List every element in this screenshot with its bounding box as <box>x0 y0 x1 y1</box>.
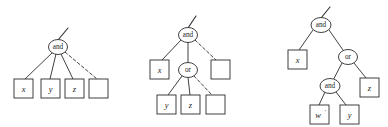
tree-2-edge-to-empty-top <box>195 40 216 60</box>
tree-1-leaf-box-empty[interactable] <box>89 79 108 98</box>
tree-1-root-stub-edge <box>58 28 68 40</box>
and-or-trees-figure: and x y z and or x <box>0 0 388 127</box>
tree-1-leaf-label-z: z <box>72 85 77 94</box>
tree-3-or-label: or <box>345 53 352 61</box>
tree-2-leaf-box-empty[interactable] <box>206 95 225 114</box>
tree-3-or-edge-to-and <box>334 63 342 79</box>
tree-2-leaf-label-y: y <box>164 101 169 110</box>
tree-1-leaf-label-x: x <box>21 85 26 94</box>
tree-1-edge-to-empty <box>65 52 97 79</box>
tree-3-edge-to-or <box>329 30 343 50</box>
tree-2: and or x y z <box>150 16 230 114</box>
tree-2-or-edge-to-z <box>188 78 190 96</box>
tree-1-root-label: and <box>53 43 64 51</box>
tree-3-leaf-label-z: z <box>367 84 372 93</box>
tree-1-edge-to-y <box>50 54 56 79</box>
tree-2-or-edge-to-empty <box>194 76 212 95</box>
tree-3-inner-and-label: and <box>325 82 336 90</box>
tree-1-leaf-label-y: y <box>48 85 53 94</box>
tree-2-or-edge-to-y <box>168 76 182 95</box>
tree-2-root-label: and <box>183 31 194 39</box>
diagram-canvas: and x y z and or x <box>0 0 388 127</box>
tree-3-leaf-label-y: y <box>347 111 352 120</box>
tree-3-or-edge-to-z <box>354 63 366 78</box>
tree-3-leaf-label-w: w <box>315 111 321 120</box>
tree-3-edge-to-x <box>299 30 313 50</box>
tree-2-edge-to-x <box>162 40 181 60</box>
tree-2-or-label: or <box>185 66 192 74</box>
tree-3-root-label: and <box>316 21 327 29</box>
tree-1-edge-to-x <box>25 53 52 79</box>
tree-2-leaf-label-z: z <box>188 101 193 110</box>
tree-3-leaf-label-x: x <box>295 56 300 65</box>
tree-3: and or and x z w ' y <box>288 7 379 124</box>
tree-2-leaf-box-empty-top[interactable] <box>211 60 230 79</box>
tree-1: and x y z <box>14 28 108 98</box>
tree-3-and-edge-to-y <box>336 92 346 105</box>
tree-3-root-stub-edge <box>321 7 330 18</box>
tree-2-root-stub-edge <box>188 16 196 28</box>
tree-2-leaf-label-x: x <box>157 66 162 75</box>
tree-3-and-edge-to-w <box>319 92 325 105</box>
